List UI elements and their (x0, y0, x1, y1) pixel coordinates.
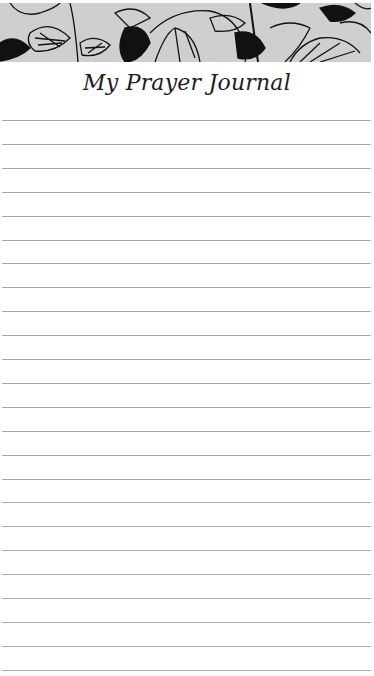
ruled-line (2, 263, 371, 264)
ruled-line (2, 479, 371, 480)
ruled-line (2, 455, 371, 456)
ruled-line (2, 287, 371, 288)
ruled-line (2, 431, 371, 432)
ruled-line (2, 335, 371, 336)
ruled-line (2, 144, 371, 145)
ruled-line (2, 120, 371, 121)
ruled-line (2, 526, 371, 527)
floral-banner-icon (0, 3, 371, 62)
ruled-line (2, 502, 371, 503)
ruled-line (2, 670, 371, 671)
ruled-line (2, 574, 371, 575)
ruled-line (2, 311, 371, 312)
ruled-line (2, 192, 371, 193)
ruled-line (2, 646, 371, 647)
ruled-line (2, 240, 371, 241)
ruled-line (2, 407, 371, 408)
page-title: My Prayer Journal (0, 70, 374, 95)
ruled-line (2, 359, 371, 360)
ruled-line (2, 383, 371, 384)
ruled-line (2, 168, 371, 169)
ruled-line (2, 598, 371, 599)
ruled-line (2, 622, 371, 623)
ruled-line (2, 216, 371, 217)
ruled-line (2, 550, 371, 551)
